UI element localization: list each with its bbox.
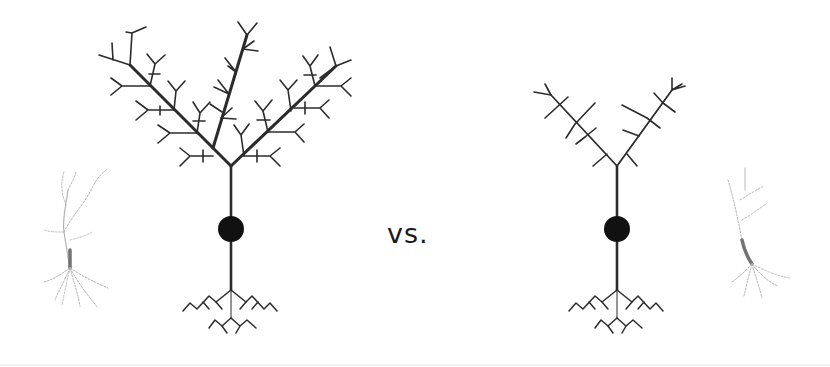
- right-soma: [604, 216, 630, 242]
- bottom-divider: [0, 364, 830, 366]
- left-soma: [218, 216, 244, 242]
- comparison-label: vs.: [387, 218, 429, 249]
- neuron-comparison-diagram: [0, 0, 830, 367]
- left-schematic-neuron: [99, 22, 351, 333]
- left-photo-neuron: [44, 170, 108, 308]
- right-schematic-neuron: [534, 78, 685, 333]
- right-photo-neuron: [728, 168, 790, 298]
